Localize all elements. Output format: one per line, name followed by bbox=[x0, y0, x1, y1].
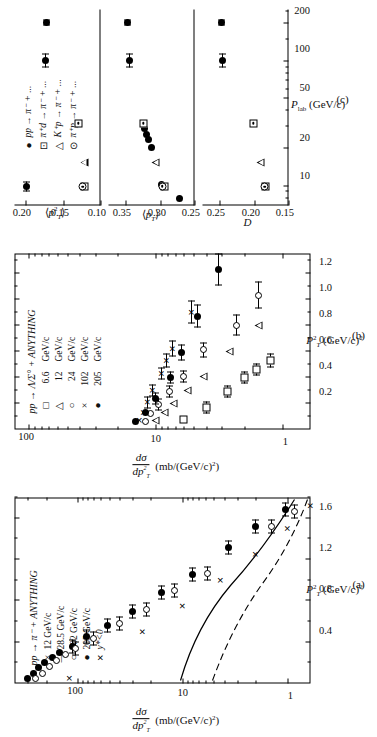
y-tick-right bbox=[287, 497, 288, 502]
panel-b-y-tick-label-1: 10 bbox=[155, 438, 166, 449]
y-tick-right bbox=[182, 497, 183, 502]
y-minor-tick bbox=[119, 680, 120, 683]
panel-c-x-tick bbox=[283, 60, 288, 61]
panel-a-x-tick-label-3: 1.6 bbox=[325, 506, 338, 517]
y-minor-tick bbox=[175, 426, 176, 429]
y-minor-tick-right bbox=[100, 497, 101, 500]
legend-symbol-open-circle-icon: ○ bbox=[66, 397, 77, 413]
panel-b-point-66GeVc bbox=[266, 356, 274, 364]
panel-a-point-205GeVc bbox=[128, 607, 135, 614]
panel-c-y-tick bbox=[100, 200, 101, 205]
panel-b-point-66GeVc bbox=[179, 415, 187, 423]
panel-c-y-tick bbox=[125, 200, 126, 205]
y-minor-tick bbox=[167, 426, 168, 429]
panel-b-x-tick-label-3: 0.8 bbox=[325, 313, 338, 324]
y-minor-tick bbox=[193, 426, 194, 429]
panel-c-ylabel-pt2: ⟨p2T⟩ bbox=[54, 213, 75, 229]
panel-b-point-12GeVc bbox=[151, 416, 159, 424]
y-minor-tick bbox=[224, 680, 225, 683]
y-minor-tick-right bbox=[132, 497, 133, 500]
y-minor-tick-right bbox=[206, 253, 207, 256]
y-minor-tick-right bbox=[224, 497, 225, 500]
panel-b-point-102GeVc: × bbox=[162, 357, 169, 363]
panel-c-1-point bbox=[158, 182, 166, 190]
panel-c-0-point bbox=[22, 183, 29, 190]
panel-a-point-12gev: × bbox=[178, 602, 185, 608]
panel-c-0-point bbox=[78, 182, 86, 190]
panel-c-2-point bbox=[260, 182, 268, 190]
x-tick-top bbox=[14, 376, 19, 377]
panel-c-x-minor-tick bbox=[285, 38, 288, 39]
panel-a-point-205GeVc bbox=[225, 543, 232, 550]
panel-c-x-tick bbox=[283, 147, 288, 148]
y-minor-tick bbox=[46, 680, 47, 683]
panel-b-legend-unit-1: GeV/c bbox=[54, 336, 64, 371]
y-minor-tick-right bbox=[221, 253, 222, 256]
x-minor-tick-top bbox=[14, 661, 17, 662]
y-minor-tick-right bbox=[95, 253, 96, 256]
panel-a-x-tick-label-0: 0.4 bbox=[325, 630, 338, 641]
y-minor-tick-right bbox=[213, 497, 214, 500]
panel-c-subplot-D bbox=[202, 9, 288, 205]
panel-c-1-point bbox=[151, 158, 159, 166]
panel-a-point-12gev: × bbox=[97, 654, 104, 660]
y-tick bbox=[282, 424, 283, 429]
y-minor-tick-right bbox=[237, 497, 238, 500]
y-minor-tick bbox=[67, 426, 68, 429]
panel-c-x-minor-tick bbox=[285, 66, 288, 67]
x-tick-top bbox=[14, 298, 19, 299]
x-tick bbox=[305, 298, 310, 299]
y-minor-tick-right bbox=[192, 497, 193, 500]
y-minor-tick bbox=[82, 680, 83, 683]
panel-b-point-205GeVc bbox=[152, 394, 159, 401]
y-minor-tick bbox=[48, 426, 49, 429]
x-minor-tick bbox=[307, 579, 310, 580]
panel-c-1-point bbox=[139, 119, 147, 127]
panel-c-legend: ●pp → π⁻ + ... ⊡π⁺d → π⁻ + ... △K⁺p → π⁻… bbox=[20, 79, 80, 153]
panel-b-point-24GeVc bbox=[180, 372, 187, 379]
panel-a-point-102GeVc bbox=[115, 620, 122, 627]
y-minor-tick-right bbox=[48, 253, 49, 256]
panel-c-2-point bbox=[218, 56, 225, 63]
y-minor-tick bbox=[79, 426, 80, 429]
panel-c-x-tick bbox=[283, 185, 288, 186]
legend-symbol-circled-dot-icon: ⊙ bbox=[68, 137, 78, 153]
x-minor-tick-top bbox=[14, 496, 17, 497]
panel-a-point-102GeVc bbox=[143, 605, 150, 612]
panel-c-x-tick bbox=[283, 22, 288, 23]
x-minor-tick-top bbox=[14, 311, 17, 312]
x-tick bbox=[305, 272, 310, 273]
panel-b-point-24GeVc bbox=[233, 321, 240, 328]
x-minor-tick-top bbox=[14, 363, 17, 364]
panel-b-y-tick-label-2: 1 bbox=[285, 441, 290, 452]
y-minor-tick-right bbox=[34, 253, 35, 256]
x-minor-tick-top bbox=[14, 389, 17, 390]
legend-symbol-open-triangle-icon: △ bbox=[53, 397, 64, 413]
y-minor-tick-right bbox=[57, 253, 58, 256]
panel-a-y-tick-label-2: 1 bbox=[290, 695, 295, 706]
panel-c-y-tick bbox=[194, 200, 195, 205]
y-minor-tick-right bbox=[175, 253, 176, 256]
panel-a-point-102GeVc bbox=[291, 508, 298, 515]
panel-c-ylabel-pt: ⟨pT⟩ bbox=[150, 215, 167, 230]
panel-c-0-point bbox=[80, 158, 88, 166]
panel-b-legend-unit-2: GeV/c bbox=[67, 336, 77, 371]
y-minor-tick-right bbox=[167, 253, 168, 256]
x-tick bbox=[305, 324, 310, 325]
panel-b-point-102GeVc: × bbox=[157, 370, 164, 376]
panel-c-x-minor-tick bbox=[285, 10, 288, 11]
panel-c-1-point bbox=[125, 56, 132, 63]
panel-c-x-tick-label-4: 200 bbox=[302, 10, 318, 21]
panel-b-x-tick-label-1: 0.4 bbox=[325, 365, 338, 376]
panel-b-point-205GeVc bbox=[142, 409, 149, 416]
y-tick bbox=[155, 424, 156, 429]
y-minor-tick-right bbox=[79, 253, 80, 256]
x-minor-tick-top bbox=[14, 259, 17, 260]
y-minor-tick bbox=[161, 426, 162, 429]
panel-b-point-102GeVc: × bbox=[169, 345, 176, 351]
panel-c-y-tick bbox=[288, 200, 289, 205]
panel-a-point-102GeVc bbox=[52, 657, 59, 664]
panel-b-point-24GeVc bbox=[254, 291, 261, 298]
legend-symbol-cross-icon: × bbox=[79, 397, 90, 413]
panel-a-point-205GeVc bbox=[55, 649, 62, 656]
